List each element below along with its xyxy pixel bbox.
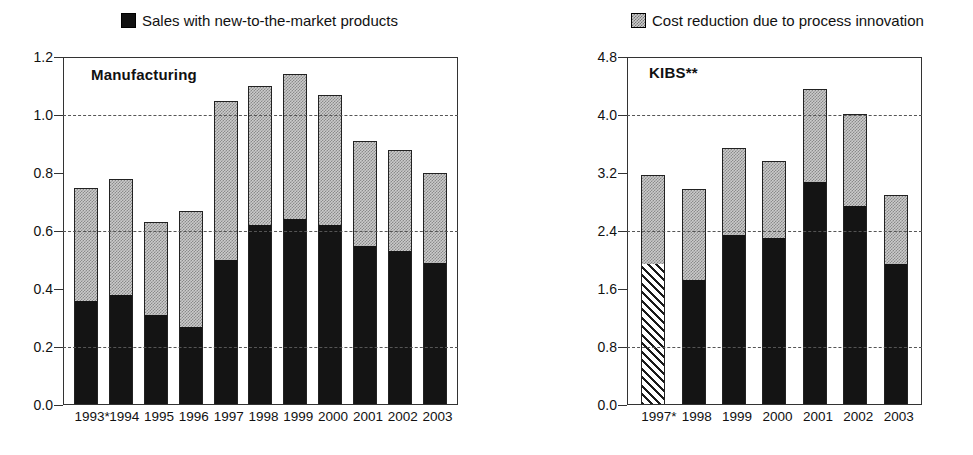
y-axis-tick-mark	[618, 289, 627, 290]
axis-baseline	[63, 404, 458, 405]
bar-segment-sales	[803, 182, 827, 405]
bar-segment-sales	[283, 219, 307, 405]
gridline	[627, 115, 922, 116]
gridline	[63, 115, 458, 116]
bar-1997star	[641, 175, 665, 405]
x-axis-tick-label: 2001	[803, 409, 827, 424]
bar-segment-cost-reduction	[884, 195, 908, 264]
gridline	[627, 231, 922, 232]
y-axis-tick-label: 2.4	[598, 223, 617, 239]
bar-1995	[144, 222, 168, 405]
dotted-square-icon	[631, 13, 646, 28]
y-axis-manufacturing: 0.00.20.40.60.81.01.2	[3, 57, 63, 405]
bar-1997	[214, 101, 238, 406]
bar-segment-cost-reduction	[843, 114, 867, 206]
bar-2003	[884, 195, 908, 405]
y-axis-tick-label: 0.2	[34, 339, 53, 355]
bar-segment-sales	[388, 251, 412, 405]
x-axis-tick-label: 1997*	[641, 409, 665, 424]
bar-segment-cost-reduction	[423, 173, 447, 263]
bar-2003	[423, 173, 447, 405]
y-axis-tick-mark	[54, 289, 63, 290]
bar-segment-sales	[722, 235, 746, 405]
chart-legend: Sales with new-to-the-market products Co…	[0, 8, 973, 40]
bar-2002	[843, 114, 867, 405]
x-axis-labels-manufacturing: 1993*19941995199619971998199920002001200…	[63, 409, 458, 424]
y-axis-tick-mark	[618, 173, 627, 174]
bar-segment-cost-reduction	[722, 148, 746, 235]
bar-1998	[682, 189, 706, 405]
bar-segment-cost-reduction	[74, 188, 98, 301]
y-axis-tick-mark	[54, 405, 63, 406]
bar-segment-sales	[214, 260, 238, 405]
y-axis-tick-label: 0.0	[598, 397, 617, 413]
y-axis-tick-mark	[618, 115, 627, 116]
y-axis-tick-label: 0.4	[34, 281, 53, 297]
bar-segment-cost-reduction	[353, 141, 377, 245]
bar-segment-cost-reduction	[682, 189, 706, 280]
y-axis-tick-mark	[618, 231, 627, 232]
bar-segment-cost-reduction	[388, 150, 412, 252]
x-axis-tick-label: 1995	[144, 409, 168, 424]
x-axis-tick-label: 1994	[109, 409, 133, 424]
legend-item-label: Sales with new-to-the-market products	[142, 13, 398, 28]
gridline	[63, 231, 458, 232]
x-axis-tick-label: 1998	[248, 409, 272, 424]
bar-segment-sales	[353, 246, 377, 406]
y-axis-kibs: 0.00.81.62.43.24.04.8	[567, 57, 627, 405]
y-axis-tick-label: 0.0	[34, 397, 53, 413]
y-axis-tick-label: 3.2	[598, 165, 617, 181]
bar-1999	[722, 148, 746, 405]
x-axis-tick-label: 1999	[283, 409, 307, 424]
x-axis-tick-label: 1996	[179, 409, 203, 424]
bar-1996	[179, 211, 203, 405]
legend-item-sales: Sales with new-to-the-market products	[121, 13, 398, 28]
bar-1999	[283, 74, 307, 405]
chart-panel-manufacturing: Manufacturing	[63, 57, 458, 405]
x-axis-tick-label: 2003	[423, 409, 447, 424]
x-axis-tick-label: 1998	[682, 409, 706, 424]
bar-segment-cost-reduction	[109, 179, 133, 295]
x-axis-tick-label: 2002	[388, 409, 412, 424]
y-axis-tick-label: 1.6	[598, 281, 617, 297]
bar-2000	[318, 95, 342, 405]
legend-item-cost-reduction: Cost reduction due to process innovation	[631, 13, 924, 28]
y-axis-tick-label: 4.0	[598, 107, 617, 123]
y-axis-tick-label: 0.6	[34, 223, 53, 239]
x-axis-tick-label: 2001	[353, 409, 377, 424]
bar-1993star	[74, 188, 98, 405]
gridline	[627, 347, 922, 348]
bar-segment-sales	[843, 206, 867, 405]
bar-segment-sales	[884, 264, 908, 405]
bar-1998	[248, 86, 272, 405]
bar-2001	[353, 141, 377, 405]
y-axis-tick-label: 4.8	[598, 49, 617, 65]
bar-segment-cost-reduction	[803, 89, 827, 182]
bar-segment-sales	[74, 301, 98, 405]
bar-segment-sales	[318, 225, 342, 405]
y-axis-tick-mark	[54, 347, 63, 348]
y-axis-tick-mark	[618, 405, 627, 406]
bar-segment-sales	[248, 225, 272, 405]
axis-baseline	[627, 404, 922, 405]
y-axis-tick-mark	[54, 115, 63, 116]
x-axis-tick-label: 1999	[722, 409, 746, 424]
x-axis-tick-label: 1993*	[74, 409, 98, 424]
y-axis-tick-mark	[618, 347, 627, 348]
solid-square-icon	[121, 13, 136, 28]
y-axis-tick-label: 0.8	[34, 165, 53, 181]
bar-segment-cost-reduction	[214, 101, 238, 261]
bar-segment-sales	[682, 280, 706, 405]
bar-2000	[762, 161, 786, 405]
x-axis-tick-label: 2000	[762, 409, 786, 424]
y-axis-tick-label: 1.2	[34, 49, 53, 65]
bar-segment-sales	[641, 264, 665, 405]
chart-panel-kibs: KIBS**	[627, 57, 922, 405]
bar-segment-sales	[179, 327, 203, 405]
bar-segment-cost-reduction	[762, 161, 786, 238]
y-axis-tick-mark	[54, 173, 63, 174]
legend-item-label: Cost reduction due to process innovation	[652, 13, 924, 28]
x-axis-labels-kibs: 1997*199819992000200120022003	[627, 409, 922, 424]
bar-segment-sales	[762, 238, 786, 405]
bar-segment-sales	[423, 263, 447, 405]
